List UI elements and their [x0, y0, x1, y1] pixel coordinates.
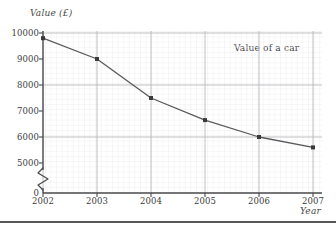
minor-gridlines: [43, 31, 322, 193]
x-tick-label: 2007: [293, 196, 333, 206]
x-tick-label: 2002: [23, 196, 63, 206]
footer-rule: [0, 221, 336, 223]
x-tick-label: 2005: [185, 196, 225, 206]
x-tick-label: 2004: [131, 196, 171, 206]
data-point-marker: [149, 96, 153, 100]
data-point-marker: [311, 145, 315, 149]
data-point-marker: [257, 135, 261, 139]
data-point-marker: [95, 57, 99, 61]
x-tick-label: 2003: [77, 196, 117, 206]
chart-figure: Value (£) Year Value of a car 1000090008…: [0, 0, 336, 230]
x-tick-label: 2006: [239, 196, 279, 206]
data-point-marker: [203, 118, 207, 122]
data-point-marker: [41, 36, 45, 40]
